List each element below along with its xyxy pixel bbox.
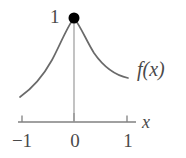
function-plot-figure: 1 f(x) x −1 0 1 bbox=[0, 0, 186, 158]
x-tick-label-neg1: −1 bbox=[4, 131, 40, 150]
x-axis-name-label: x bbox=[142, 113, 150, 131]
peak-value-label: 1 bbox=[50, 7, 60, 26]
x-tick-label-pos1: 1 bbox=[110, 131, 146, 150]
x-tick-label-zero: 0 bbox=[57, 131, 93, 150]
peak-marker-dot bbox=[69, 13, 80, 24]
function-name-label: f(x) bbox=[137, 59, 165, 79]
